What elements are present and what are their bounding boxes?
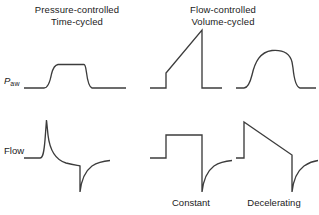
waveform-paw-pressure-controlled — [24, 65, 126, 89]
waveform-flow-pressure-controlled — [24, 120, 110, 192]
waveform-plot-area — [0, 0, 319, 215]
ventilator-waveform-figure: Pressure-controlled Time-cycled Flow-con… — [0, 0, 319, 215]
waveform-paw-decelerating-flow — [236, 50, 316, 88]
waveform-flow-constant — [150, 135, 232, 192]
waveform-paw-constant-flow — [150, 30, 222, 88]
waveform-flow-decelerating — [236, 122, 318, 192]
